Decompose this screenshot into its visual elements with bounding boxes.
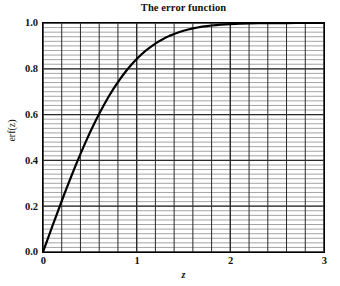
chart-figure: The error function 0.00.20.40.60.81.0 01…: [0, 0, 340, 286]
x-tick-label: 3: [312, 255, 336, 266]
plot-canvas: [43, 23, 324, 252]
y-axis-label: erf(z): [6, 101, 17, 161]
plot-area: [42, 22, 325, 253]
minor-horizontal-gridlines: [43, 23, 324, 252]
x-axis-label: z: [42, 269, 325, 280]
x-tick-label: 1: [125, 255, 149, 266]
y-axis-label-wrap: erf(z): [0, 0, 40, 286]
x-tick-label: 2: [219, 255, 243, 266]
chart-title: The error function: [42, 2, 325, 13]
